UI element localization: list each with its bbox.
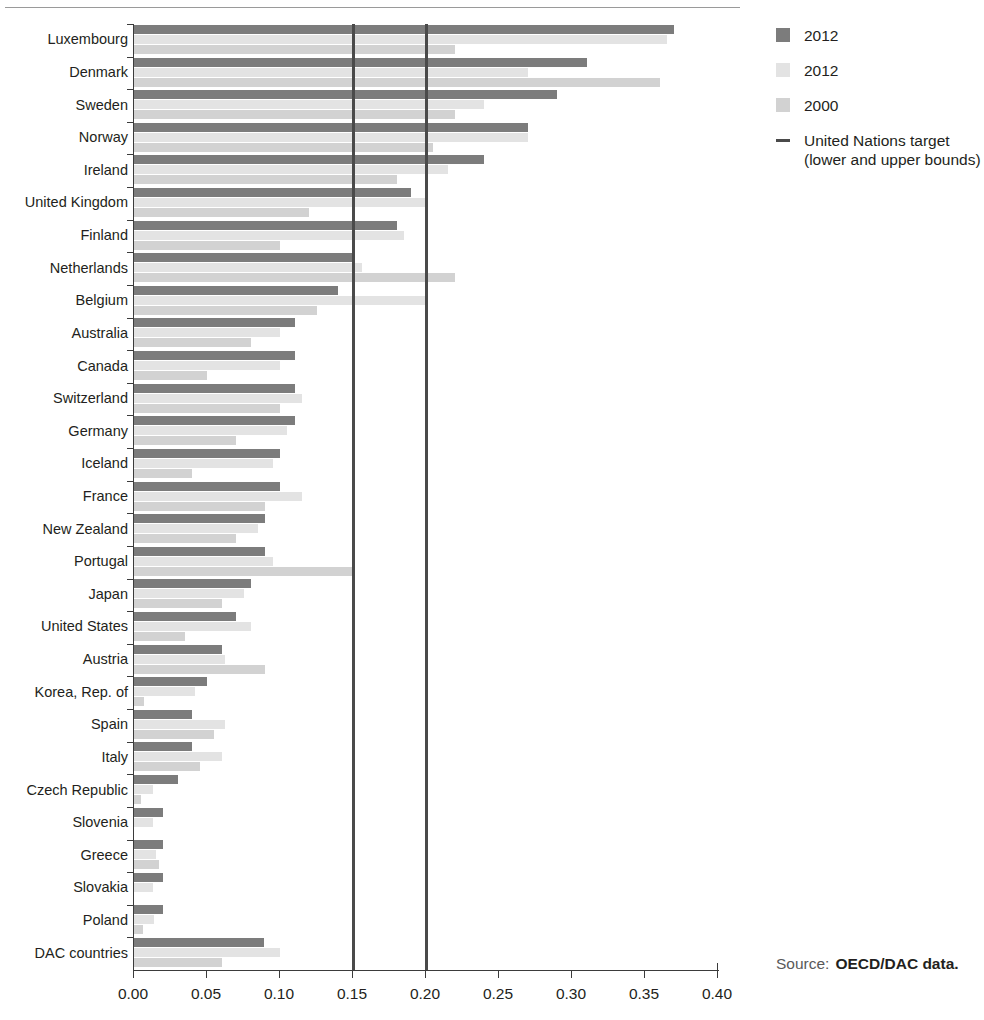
- y-axis-tick: [127, 415, 134, 416]
- bar: [134, 426, 287, 435]
- bar: [134, 306, 317, 315]
- y-axis-label: New Zealand: [4, 522, 128, 537]
- y-axis-tick: [127, 709, 134, 710]
- x-axis-tick: [206, 970, 207, 978]
- bar: [134, 915, 154, 924]
- y-axis-tick: [127, 318, 134, 319]
- bar: [134, 338, 251, 347]
- legend-item-label: 2000: [804, 96, 838, 115]
- bar: [134, 404, 280, 413]
- y-axis-label: Czech Republic: [4, 783, 128, 798]
- bar: [134, 241, 280, 250]
- bar: [134, 436, 236, 445]
- bar: [134, 449, 280, 458]
- legend-swatch-icon: [776, 63, 790, 77]
- un-target-line: [425, 24, 428, 971]
- legend-swatch-icon: [776, 98, 790, 112]
- bar: [134, 318, 295, 327]
- y-axis-label: Netherlands: [4, 261, 128, 276]
- bar: [134, 873, 163, 882]
- bar: [134, 361, 280, 370]
- bar: [134, 697, 144, 706]
- bar: [134, 742, 192, 751]
- bar: [134, 795, 141, 804]
- bar: [134, 35, 667, 44]
- x-axis-tick-label: 0.30: [536, 985, 606, 1003]
- bar: [134, 775, 178, 784]
- bar: [134, 677, 207, 686]
- bar: [134, 371, 207, 380]
- bar: [134, 286, 338, 295]
- legend-item: 2012: [776, 61, 984, 80]
- legend-item: 2012: [776, 26, 984, 45]
- bar: [134, 524, 258, 533]
- legend-item: 2000: [776, 96, 984, 115]
- y-axis-tick: [127, 546, 134, 547]
- y-axis-tick: [127, 742, 134, 743]
- bar: [134, 165, 448, 174]
- y-axis-label: United Kingdom: [4, 195, 128, 210]
- x-axis-tick: [352, 970, 353, 978]
- bar: [134, 883, 153, 892]
- y-axis-label: Canada: [4, 359, 128, 374]
- y-axis-tick: [127, 807, 134, 808]
- x-axis-tick: [425, 970, 426, 978]
- y-axis-tick: [127, 872, 134, 873]
- chart-figure: LuxembourgDenmarkSwedenNorwayIrelandUnit…: [0, 0, 745, 1020]
- bar: [134, 133, 528, 142]
- y-axis-label: United States: [4, 619, 128, 634]
- bar: [134, 253, 353, 262]
- bar: [134, 948, 280, 957]
- bar: [134, 720, 225, 729]
- y-axis-tick: [127, 122, 134, 123]
- x-axis-tick: [279, 970, 280, 978]
- y-axis-tick: [127, 187, 134, 188]
- bar: [134, 534, 236, 543]
- y-axis-tick: [127, 774, 134, 775]
- bar: [134, 850, 156, 859]
- y-axis-tick: [127, 220, 134, 221]
- bar: [134, 188, 411, 197]
- legend: 201220122000 United Nations target (lowe…: [776, 26, 984, 185]
- y-axis-label: Switzerland: [4, 391, 128, 406]
- bar: [134, 45, 455, 54]
- source-label: Source:: [776, 955, 829, 972]
- legend-item-label: 2012: [804, 61, 838, 80]
- y-axis-tick: [127, 905, 134, 906]
- bar: [134, 90, 557, 99]
- bar: [134, 645, 222, 654]
- bar: [134, 655, 225, 664]
- bar: [134, 58, 587, 67]
- y-axis-tick: [127, 579, 134, 580]
- bar: [134, 482, 280, 491]
- bar: [134, 785, 153, 794]
- bar: [134, 622, 251, 631]
- bar: [134, 762, 200, 771]
- bar: [134, 567, 353, 576]
- bar: [134, 175, 397, 184]
- y-axis-label: Iceland: [4, 456, 128, 471]
- bar: [134, 502, 265, 511]
- y-axis-tick: [127, 611, 134, 612]
- y-axis-label: Australia: [4, 326, 128, 341]
- y-axis-tick: [127, 937, 134, 938]
- bar: [134, 589, 244, 598]
- y-axis-label: Luxembourg: [4, 32, 128, 47]
- y-axis-tick: [127, 252, 134, 253]
- bar: [134, 143, 433, 152]
- x-axis-tick-label: 0.35: [609, 985, 679, 1003]
- x-axis-tick-label: 0.25: [463, 985, 533, 1003]
- x-axis-tick-label: 0.00: [98, 985, 168, 1003]
- legend-item-label: United Nations target (lower and upper b…: [804, 131, 981, 169]
- bar: [134, 514, 265, 523]
- y-axis-label: Austria: [4, 652, 128, 667]
- y-axis-tick: [127, 350, 134, 351]
- y-axis-label: Poland: [4, 913, 128, 928]
- target-line-icon: [776, 133, 790, 147]
- x-axis-tick-label: 0.40: [682, 985, 752, 1003]
- y-axis-label: Ireland: [4, 163, 128, 178]
- y-axis-category-labels: LuxembourgDenmarkSwedenNorwayIrelandUnit…: [0, 24, 128, 970]
- bar: [134, 110, 455, 119]
- y-axis-label: Belgium: [4, 293, 128, 308]
- bar: [134, 296, 426, 305]
